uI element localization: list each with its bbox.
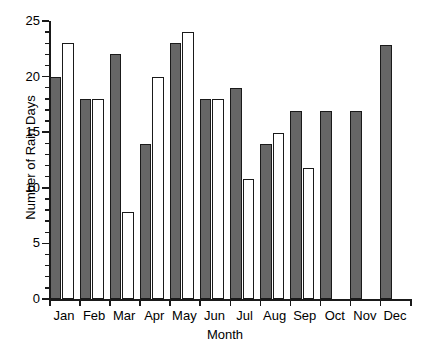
y-tick-minor bbox=[45, 98, 49, 99]
y-tick-minor bbox=[45, 276, 49, 277]
y-tick-minor bbox=[45, 31, 49, 32]
bar-jun-series1 bbox=[200, 99, 212, 299]
y-tick-major bbox=[42, 187, 49, 189]
y-tick-minor bbox=[45, 120, 49, 121]
y-tick-minor bbox=[45, 43, 49, 44]
y-tick-label: 5 bbox=[0, 236, 40, 249]
y-tick-minor bbox=[45, 287, 49, 288]
bar-may-series2 bbox=[182, 32, 194, 299]
x-tick bbox=[290, 299, 292, 306]
plot-area: 0510152025 JanFebMarAprMayJunJulAugSepOc… bbox=[49, 21, 410, 299]
bar-apr-series1 bbox=[140, 144, 152, 299]
bar-sep-series1 bbox=[290, 111, 302, 299]
bar-aug-series2 bbox=[273, 133, 285, 299]
y-tick-minor bbox=[45, 176, 49, 177]
x-tick bbox=[169, 299, 171, 306]
bar-jun-series2 bbox=[212, 99, 224, 299]
x-tick-label-dec: Dec bbox=[372, 309, 418, 323]
x-tick bbox=[49, 299, 51, 306]
y-tick-major bbox=[42, 76, 49, 78]
y-tick-minor bbox=[45, 254, 49, 255]
y-tick-major bbox=[42, 131, 49, 133]
y-tick-minor bbox=[45, 54, 49, 55]
x-tick bbox=[109, 299, 111, 306]
x-tick bbox=[380, 299, 382, 306]
bar-jul-series2 bbox=[243, 179, 255, 299]
x-tick bbox=[139, 299, 141, 306]
bar-oct-series1 bbox=[320, 111, 332, 299]
y-tick-minor bbox=[45, 209, 49, 210]
x-tick bbox=[350, 299, 352, 306]
x-axis-title: Month bbox=[40, 327, 410, 342]
y-tick-label: 20 bbox=[0, 70, 40, 83]
y-tick-label: 25 bbox=[0, 14, 40, 27]
bar-may-series1 bbox=[170, 43, 182, 299]
y-tick-major bbox=[42, 298, 49, 300]
rain-days-bar-chart: Number of Rain Days 0510152025 JanFebMar… bbox=[0, 0, 421, 349]
bar-feb-series1 bbox=[80, 99, 92, 299]
y-tick-minor bbox=[45, 165, 49, 166]
y-tick-minor bbox=[45, 198, 49, 199]
x-tick bbox=[320, 299, 322, 306]
y-tick-minor bbox=[45, 109, 49, 110]
y-tick-label: 10 bbox=[0, 181, 40, 194]
x-tick bbox=[79, 299, 81, 306]
y-tick-minor bbox=[45, 65, 49, 66]
bar-apr-series2 bbox=[152, 77, 164, 299]
y-tick-minor bbox=[45, 143, 49, 144]
bar-jan-series1 bbox=[50, 77, 62, 299]
y-tick-minor bbox=[45, 220, 49, 221]
y-tick-label: 0 bbox=[0, 292, 40, 305]
bar-dec-series1 bbox=[380, 45, 392, 299]
y-tick-minor bbox=[45, 232, 49, 233]
bar-aug-series1 bbox=[260, 144, 272, 299]
bar-jan-series2 bbox=[62, 43, 74, 299]
y-tick-major bbox=[42, 20, 49, 22]
y-tick-minor bbox=[45, 265, 49, 266]
x-tick bbox=[410, 299, 412, 306]
y-tick-major bbox=[42, 243, 49, 245]
x-tick bbox=[199, 299, 201, 306]
bar-sep-series2 bbox=[303, 168, 315, 299]
y-tick-minor bbox=[45, 154, 49, 155]
bar-feb-series2 bbox=[92, 99, 104, 299]
x-tick bbox=[230, 299, 232, 306]
y-tick-label: 15 bbox=[0, 125, 40, 138]
bar-mar-series2 bbox=[122, 212, 134, 299]
bar-nov-series1 bbox=[350, 111, 362, 299]
y-tick-minor bbox=[45, 87, 49, 88]
x-tick bbox=[260, 299, 262, 306]
bar-jul-series1 bbox=[230, 88, 242, 299]
bar-mar-series1 bbox=[110, 54, 122, 299]
